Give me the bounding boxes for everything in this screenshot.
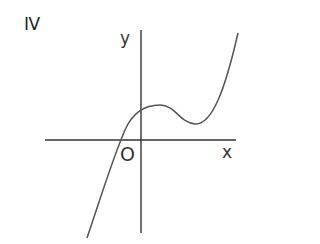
y-axis-label: y <box>120 28 130 48</box>
x-axis-label: x <box>222 142 232 162</box>
origin-label: O <box>120 143 135 165</box>
cubic-curve <box>87 33 238 238</box>
